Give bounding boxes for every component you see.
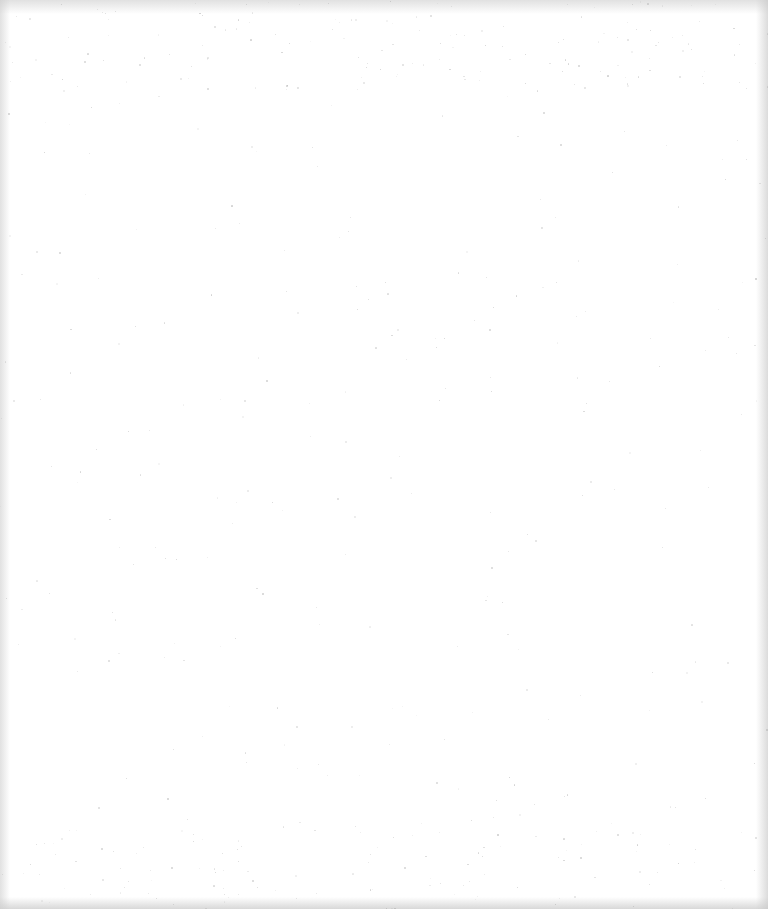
speckle-dot bbox=[699, 21, 700, 22]
speckle-dot bbox=[136, 853, 137, 854]
speckle-dot bbox=[225, 29, 227, 31]
speckle-dot bbox=[678, 863, 679, 864]
speckle-dot bbox=[754, 345, 755, 346]
speckle-dot bbox=[720, 880, 722, 882]
speckle-dot bbox=[12, 62, 13, 63]
speckle-dot bbox=[463, 885, 464, 886]
speckle-dot bbox=[722, 159, 723, 160]
speckle-dot bbox=[358, 57, 359, 58]
speckle-dot bbox=[151, 880, 152, 881]
speckle-dot bbox=[563, 860, 565, 862]
speckle-dot bbox=[169, 54, 170, 55]
speckle-dot bbox=[316, 893, 317, 894]
speckle-dot bbox=[44, 843, 45, 844]
speckle-dot bbox=[736, 353, 738, 355]
speckle-dot bbox=[247, 871, 249, 873]
speckle-dot bbox=[214, 868, 216, 870]
speckle-dot bbox=[150, 870, 151, 871]
speckle-dot bbox=[51, 466, 52, 467]
speckle-dot bbox=[173, 904, 174, 905]
speckle-dot bbox=[617, 37, 618, 38]
speckle-dot bbox=[632, 4, 633, 5]
speckle-dot bbox=[746, 88, 747, 89]
speckle-dot bbox=[464, 35, 465, 36]
speckle-dot bbox=[718, 309, 719, 310]
speckle-dot bbox=[603, 33, 605, 35]
speckle-dot bbox=[647, 3, 649, 5]
speckle-dot bbox=[650, 30, 651, 31]
speckle-dot bbox=[45, 122, 46, 123]
speckle-dot bbox=[682, 35, 683, 36]
speckle-dot bbox=[128, 881, 129, 882]
speckle-dot bbox=[268, 2, 269, 3]
speckle-dot bbox=[416, 16, 418, 18]
speckle-dot bbox=[97, 9, 98, 10]
speckle-dot bbox=[467, 864, 469, 866]
speckle-dot bbox=[672, 37, 673, 38]
speckle-dot bbox=[20, 77, 21, 78]
speckle-dot bbox=[339, 22, 340, 23]
speckle-dot bbox=[662, 5, 664, 7]
speckle-dot bbox=[343, 38, 345, 40]
speckle-dot bbox=[44, 152, 45, 153]
speckle-dot bbox=[742, 282, 744, 284]
speckle-dot bbox=[202, 45, 203, 46]
speckle-dot bbox=[250, 39, 252, 41]
page-content-area bbox=[60, 60, 708, 849]
speckle-dot bbox=[404, 867, 406, 869]
speckle-dot bbox=[120, 892, 122, 894]
speckle-dot bbox=[437, 3, 438, 4]
speckle-dot bbox=[355, 19, 357, 21]
speckle-dot bbox=[64, 888, 65, 889]
speckle-dot bbox=[5, 42, 7, 44]
speckle-dot bbox=[257, 887, 258, 888]
speckle-dot bbox=[246, 4, 247, 5]
speckle-dot bbox=[525, 54, 526, 55]
speckle-dot bbox=[124, 887, 125, 888]
speckle-dot bbox=[598, 41, 600, 43]
speckle-dot bbox=[223, 870, 224, 871]
speckle-dot bbox=[419, 30, 420, 31]
speckle-dot bbox=[392, 44, 393, 45]
speckle-dot bbox=[481, 30, 483, 32]
speckle-dot bbox=[574, 896, 576, 898]
speckle-dot bbox=[636, 29, 637, 30]
speckle-dot bbox=[2, 874, 3, 875]
speckle-dot bbox=[23, 873, 24, 874]
speckle-dot bbox=[739, 82, 740, 83]
speckle-dot bbox=[9, 46, 11, 48]
speckle-dot bbox=[296, 898, 297, 899]
speckle-dot bbox=[289, 43, 290, 44]
speckle-dot bbox=[171, 867, 173, 869]
speckle-dot bbox=[390, 1, 391, 2]
scan-edge-bottom bbox=[0, 897, 768, 909]
speckle-dot bbox=[754, 763, 755, 764]
speckle-dot bbox=[733, 28, 735, 30]
speckle-dot bbox=[222, 853, 223, 854]
speckle-dot bbox=[36, 251, 38, 253]
speckle-dot bbox=[456, 34, 457, 35]
speckle-dot bbox=[482, 856, 483, 857]
speckle-dot bbox=[708, 487, 709, 488]
speckle-dot bbox=[310, 41, 311, 42]
speckle-dot bbox=[13, 400, 15, 402]
speckle-dot bbox=[21, 274, 23, 276]
speckle-dot bbox=[386, 20, 388, 22]
speckle-dot bbox=[475, 899, 477, 901]
speckle-dot bbox=[580, 857, 582, 859]
speckle-dot bbox=[694, 862, 695, 863]
speckle-dot bbox=[649, 884, 650, 885]
speckle-dot bbox=[639, 871, 641, 873]
speckle-dot bbox=[49, 902, 50, 903]
speckle-dot bbox=[21, 609, 23, 611]
speckle-dot bbox=[199, 13, 201, 15]
speckle-dot bbox=[56, 283, 58, 285]
speckle-dot bbox=[90, 894, 91, 895]
speckle-dot bbox=[755, 837, 757, 839]
speckle-dot bbox=[658, 42, 659, 43]
speckle-dot bbox=[372, 889, 373, 890]
speckle-dot bbox=[214, 26, 216, 28]
speckle-dot bbox=[386, 908, 387, 909]
blank-scanned-page bbox=[0, 0, 768, 909]
speckle-dot bbox=[120, 868, 121, 869]
